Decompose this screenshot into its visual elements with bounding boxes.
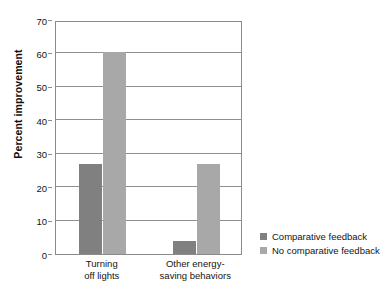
y-tick-mark xyxy=(48,87,52,88)
x-axis-categories: Turningoff lightsOther energy-saving beh… xyxy=(55,258,242,288)
chart-title-cropped xyxy=(0,0,384,7)
bar xyxy=(197,164,220,254)
legend-swatch-icon xyxy=(260,233,267,240)
legend-item[interactable]: No comparative feedback xyxy=(260,245,380,256)
gridline xyxy=(56,86,241,87)
x-category-label-line: Turning xyxy=(55,258,149,270)
legend-label: No comparative feedback xyxy=(272,245,380,256)
x-category-label: Turningoff lights xyxy=(55,258,149,281)
y-tick-mark xyxy=(48,20,52,21)
x-category-label-line: Other energy- xyxy=(149,258,243,270)
gridline xyxy=(56,119,241,120)
y-tick-label: 30 xyxy=(36,150,47,160)
gridline xyxy=(56,153,241,154)
y-tick-mark xyxy=(48,154,52,155)
bar-chart-figure: Percent improvement 010203040506070 Turn… xyxy=(0,0,384,289)
y-axis-ticks: 010203040506070 xyxy=(0,21,52,255)
plot-area xyxy=(55,21,242,255)
y-tick-label: 50 xyxy=(36,83,47,93)
legend-item[interactable]: Comparative feedback xyxy=(260,231,380,242)
y-tick-mark xyxy=(48,120,52,121)
bar xyxy=(173,241,196,254)
y-tick-mark xyxy=(48,187,52,188)
x-category-label: Other energy-saving behaviors xyxy=(149,258,243,281)
chart-legend: Comparative feedbackNo comparative feedb… xyxy=(260,231,380,259)
bar xyxy=(79,164,102,254)
y-tick-mark xyxy=(48,254,52,255)
y-tick-label: 20 xyxy=(36,183,47,193)
legend-swatch-icon xyxy=(260,247,267,254)
legend-label: Comparative feedback xyxy=(272,231,367,242)
x-category-label-line: saving behaviors xyxy=(149,270,243,282)
x-category-label-line: off lights xyxy=(55,270,149,282)
y-tick-label: 70 xyxy=(36,16,47,26)
y-tick-label: 40 xyxy=(36,117,47,127)
y-tick-mark xyxy=(48,221,52,222)
gridline xyxy=(56,52,241,53)
y-tick-label: 0 xyxy=(42,250,47,260)
y-tick-mark xyxy=(48,53,52,54)
y-tick-label: 60 xyxy=(36,50,47,60)
y-tick-label: 10 xyxy=(36,217,47,227)
bar xyxy=(103,52,126,254)
